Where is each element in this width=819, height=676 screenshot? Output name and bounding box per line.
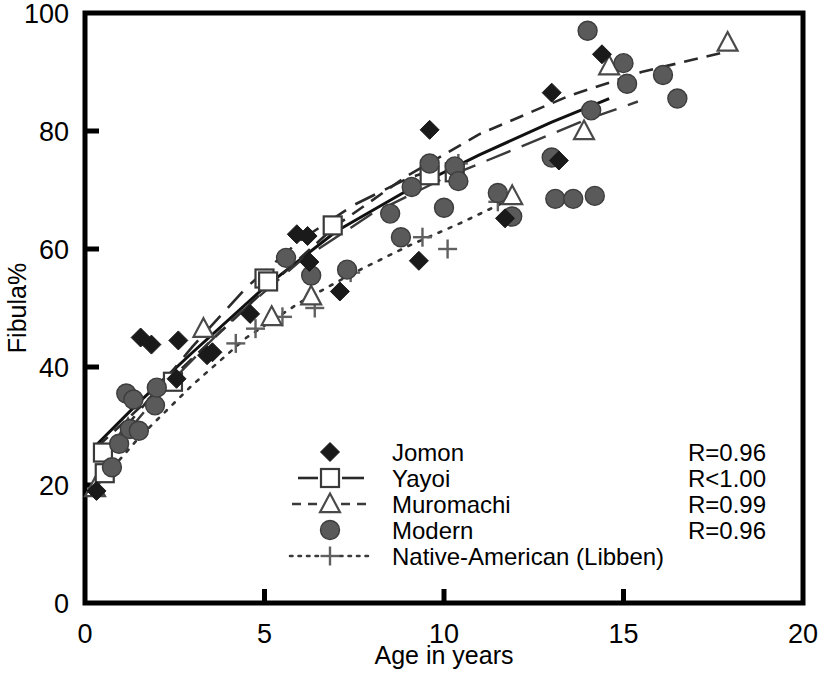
- data-point: [582, 101, 601, 120]
- data-point: [449, 172, 468, 191]
- data-point: [420, 154, 439, 173]
- data-point: [435, 198, 454, 217]
- data-point: [618, 74, 637, 93]
- y-tick-label-0: 0: [54, 589, 69, 619]
- y-tick-label-40: 40: [39, 353, 69, 383]
- data-point: [585, 186, 604, 205]
- legend-label: Yayoi: [392, 465, 450, 492]
- x-tick-label-20: 20: [788, 619, 818, 649]
- stat-value: R=0.96: [688, 517, 766, 544]
- data-point: [277, 248, 296, 267]
- y-tick-label-100: 100: [24, 0, 69, 29]
- data-point: [124, 390, 143, 409]
- x-tick-label-15: 15: [608, 619, 638, 649]
- y-tick-label-60: 60: [39, 235, 69, 265]
- data-point: [668, 89, 687, 108]
- y-tick-label-80: 80: [39, 117, 69, 147]
- data-point: [324, 216, 342, 234]
- data-point: [488, 183, 507, 202]
- data-point: [546, 189, 565, 208]
- y-axis-title: Fibula%: [3, 263, 31, 353]
- data-point: [614, 54, 633, 73]
- legend-label: Modern: [392, 517, 473, 544]
- stat-value: R=0.96: [688, 439, 766, 466]
- correlation-stats: R=0.96R<1.00R=0.99R=0.96: [688, 439, 766, 544]
- data-point: [102, 458, 121, 477]
- chart-figure: 05101520 020406080100 Age in yearsFibula…: [0, 0, 819, 676]
- chart-background: [0, 0, 819, 676]
- legend-label: Muromachi: [392, 491, 511, 518]
- data-point: [402, 178, 421, 197]
- data-point: [147, 378, 166, 397]
- legend-marker-filled-circle: [321, 521, 340, 540]
- data-point: [391, 228, 410, 247]
- data-point: [146, 396, 165, 415]
- data-point: [578, 21, 597, 40]
- stat-value: R<1.00: [688, 465, 766, 492]
- legend-label: Jomon: [392, 439, 464, 466]
- data-point: [381, 204, 400, 223]
- data-point: [564, 189, 583, 208]
- fibula-age-scatter-chart: 05101520 020406080100 Age in yearsFibula…: [0, 0, 819, 676]
- legend-label: Native-American (Libben): [392, 543, 664, 570]
- legend-marker-open-square: [321, 469, 339, 487]
- x-axis-title: Age in years: [375, 641, 514, 669]
- data-point: [653, 65, 672, 84]
- data-point: [129, 421, 148, 440]
- data-point: [259, 272, 277, 290]
- x-tick-label-0: 0: [77, 619, 92, 649]
- x-tick-label-5: 5: [257, 619, 272, 649]
- y-tick-label-20: 20: [39, 471, 69, 501]
- stat-value: R=0.99: [688, 491, 766, 518]
- data-point: [338, 260, 357, 279]
